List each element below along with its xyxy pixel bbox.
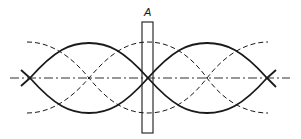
standing-wave-diagram: A [0, 0, 301, 139]
left-node-extension-a [21, 70, 30, 78]
right-node-extension-a [267, 70, 276, 78]
right-node-extension-b [267, 78, 276, 87]
left-node-extension-b [21, 78, 30, 86]
label-a: A [143, 6, 151, 18]
